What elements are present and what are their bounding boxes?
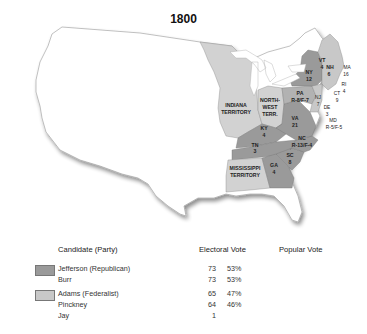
label-nj: NJ: [315, 95, 321, 100]
candidate-adams: Adams (Federalist): [58, 289, 119, 299]
candidate-burr: Burr: [58, 275, 72, 285]
label-nh: NH: [326, 64, 334, 70]
label-ct: CT: [334, 91, 340, 96]
label-ny: NY: [305, 69, 313, 75]
pct-pinckney: 46%: [227, 300, 241, 310]
label-va: VA: [292, 115, 299, 121]
label-northwest-2: WEST: [263, 104, 279, 110]
label-ri: RI: [342, 82, 347, 87]
label-indiana-2: TERRITORY: [221, 109, 251, 115]
label-indiana: INDIANA: [225, 102, 247, 108]
us-map-1800: INDIANA TERRITORY NORTH- WEST TERR. MISS…: [0, 0, 367, 240]
label-ky: KY: [260, 125, 268, 131]
label-vt: VT: [319, 57, 326, 63]
label-de: DE: [324, 105, 331, 110]
votes-md: R-5/F-5: [326, 125, 343, 130]
ev-adams: 65: [196, 289, 216, 299]
label-northwest: NORTH-: [260, 97, 280, 103]
candidate-jay: Jay: [58, 311, 69, 321]
swatch-republican: [35, 265, 55, 276]
votes-nj: 7: [317, 102, 320, 107]
label-northwest-3: TERR.: [262, 111, 278, 117]
pct-burr: 53%: [227, 275, 241, 285]
votes-ct: 9: [336, 98, 339, 103]
candidate-pinckney: Pinckney: [58, 300, 87, 310]
header-popular: Popular Vote: [279, 245, 323, 254]
swatch-federalist: [35, 290, 55, 301]
label-mississippi: MISSISSIPPI: [230, 165, 261, 171]
votes-tn: 3: [254, 148, 257, 154]
label-ma: MA: [343, 65, 351, 70]
label-mississippi-2: TERRITORY: [230, 172, 260, 178]
votes-ri: 4: [343, 89, 346, 94]
pct-jefferson: 53%: [227, 264, 241, 274]
label-nc: NC: [298, 135, 306, 141]
ev-pinckney: 64: [196, 300, 216, 310]
ev-jay: 1: [196, 311, 216, 321]
header-electoral: Electoral Vote: [199, 245, 246, 254]
label-pa: PA: [297, 90, 304, 96]
pct-adams: 47%: [227, 289, 241, 299]
votes-ma: 16: [343, 72, 349, 77]
votes-ga: 4: [273, 169, 276, 175]
label-md: MD: [329, 118, 337, 123]
ev-burr: 73: [196, 275, 216, 285]
votes-pa: R-8/F-7: [291, 97, 309, 103]
votes-nc: R-13/F-4: [292, 142, 313, 148]
header-candidate: Candidate (Party): [58, 245, 118, 254]
votes-ny: 12: [306, 76, 312, 82]
votes-va: 21: [292, 122, 298, 128]
votes-de: 3: [326, 112, 329, 117]
label-sc: SC: [286, 152, 293, 158]
votes-vt: 4: [321, 64, 324, 70]
label-ga: GA: [270, 162, 278, 168]
votes-sc: 8: [289, 159, 292, 165]
votes-ky: 4: [263, 132, 266, 138]
candidate-jefferson: Jefferson (Republican): [58, 264, 130, 274]
ev-jefferson: 73: [196, 264, 216, 274]
votes-nh: 6: [328, 71, 331, 77]
